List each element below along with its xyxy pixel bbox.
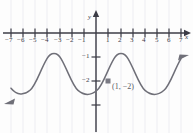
x-tick-label-3: 3 bbox=[130, 36, 134, 44]
y-axis-label: y bbox=[88, 13, 91, 21]
x-tick-label-1: 1 bbox=[106, 36, 110, 44]
coordinate-plane-plot bbox=[0, 0, 193, 133]
y-tick-label--1: −1 bbox=[82, 52, 89, 60]
marked-point bbox=[106, 79, 111, 84]
curve-left-arrowhead bbox=[4, 99, 15, 105]
x-tick-label-6: 6 bbox=[167, 36, 171, 44]
x-tick-label-4: 4 bbox=[142, 36, 146, 44]
x-axis-label: x bbox=[185, 33, 188, 41]
x-tick-label--4: −4 bbox=[41, 36, 48, 44]
y-axis bbox=[93, 10, 99, 132]
point-annotation-label: (1, −2) bbox=[112, 82, 134, 91]
x-tick-label-2: 2 bbox=[118, 36, 122, 44]
x-tick-label--5: −5 bbox=[29, 36, 36, 44]
x-tick-label--2: −2 bbox=[66, 36, 73, 44]
graph-figure: y x −7 −6 −5 −4 −3 −2 −1 1 2 3 4 5 6 7 −… bbox=[0, 0, 193, 133]
x-tick-label--1: −1 bbox=[78, 36, 85, 44]
x-tick-label--7: −7 bbox=[5, 36, 12, 44]
x-tick-label--3: −3 bbox=[54, 36, 61, 44]
x-tick-label-5: 5 bbox=[155, 36, 159, 44]
x-tick-label--6: −6 bbox=[17, 36, 24, 44]
y-tick-label--2: −2 bbox=[82, 76, 89, 84]
curve-right-arrowhead bbox=[178, 55, 189, 61]
x-tick-label-7: 7 bbox=[179, 36, 183, 44]
